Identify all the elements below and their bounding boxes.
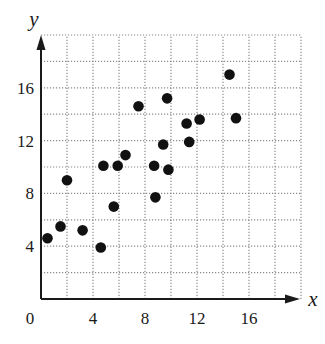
x-tick-label: 4 bbox=[89, 309, 98, 328]
y-tick-label: 8 bbox=[26, 184, 35, 203]
x-axis-label: x bbox=[307, 287, 318, 311]
data-points bbox=[42, 69, 241, 253]
data-point bbox=[163, 164, 174, 175]
y-tick-label: 4 bbox=[26, 237, 35, 256]
tick-labels: 0481216481216 bbox=[17, 79, 258, 328]
data-point bbox=[149, 160, 160, 171]
x-tick-label: 12 bbox=[189, 309, 206, 328]
x-tick-label: 8 bbox=[141, 309, 150, 328]
data-point bbox=[158, 139, 169, 150]
data-point bbox=[231, 113, 242, 124]
data-point bbox=[77, 225, 88, 236]
data-point bbox=[55, 221, 66, 232]
data-point bbox=[194, 114, 205, 125]
data-point bbox=[181, 118, 192, 129]
data-point bbox=[162, 93, 173, 104]
data-point bbox=[133, 101, 144, 112]
data-point bbox=[112, 160, 123, 171]
data-point bbox=[224, 69, 235, 80]
y-tick-label: 12 bbox=[17, 132, 34, 151]
data-point bbox=[150, 192, 161, 203]
x-tick-label: 16 bbox=[241, 309, 258, 328]
scatter-plot: 0481216481216 y x bbox=[0, 0, 325, 344]
data-point bbox=[120, 150, 131, 161]
data-point bbox=[96, 242, 107, 253]
data-point bbox=[98, 160, 109, 171]
y-axis-arrow-icon bbox=[37, 35, 46, 50]
x-axis-arrow-icon bbox=[285, 295, 300, 304]
data-point bbox=[184, 137, 195, 148]
y-tick-label: 16 bbox=[17, 79, 34, 98]
data-point bbox=[42, 233, 53, 244]
data-point bbox=[109, 201, 120, 212]
x-tick-label: 0 bbox=[26, 309, 35, 328]
y-axis-label: y bbox=[27, 7, 39, 31]
data-point bbox=[62, 175, 73, 186]
